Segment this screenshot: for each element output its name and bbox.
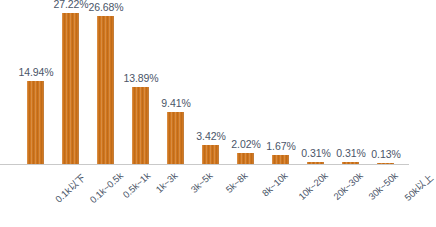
- plot-area: 14.94%27.22%26.68%13.89%9.41%3.42%2.02%1…: [18, 8, 418, 164]
- x-axis-label: 3k~5k: [188, 170, 214, 195]
- x-axis-baseline: [0, 164, 409, 165]
- x-axis-label: 30k~50k: [366, 170, 400, 202]
- bar[interactable]: [62, 13, 79, 164]
- bar[interactable]: [27, 81, 44, 164]
- x-axis-label-text: 20k~30k: [331, 170, 365, 202]
- x-axis-label: 20k~30k: [331, 170, 365, 202]
- x-axis-label-text: 30k~50k: [366, 170, 400, 202]
- x-axis-label: 50k以上: [401, 170, 436, 204]
- bar-slot: 14.94%: [18, 8, 53, 164]
- bar-slot: 0.31%: [333, 8, 368, 164]
- x-axis-label: 10k~20k: [296, 170, 330, 202]
- x-axis-label: 5k~8k: [223, 170, 249, 195]
- bar-slot: 1.67%: [263, 8, 298, 164]
- x-axis-label-text: 0.5k~1k: [120, 170, 152, 200]
- x-axis-label-text: 3k~5k: [188, 170, 214, 195]
- bar-slot: 27.22%: [53, 8, 88, 164]
- bar[interactable]: [97, 16, 114, 164]
- x-axis-label-text: 1k~3k: [153, 170, 179, 195]
- x-axis-label: 8k~10k: [260, 170, 290, 198]
- x-axis-label-text: 0.1k以下: [52, 170, 89, 205]
- bar-slot: 26.68%: [88, 8, 123, 164]
- bar[interactable]: [237, 153, 254, 164]
- x-axis-label: 0.5k~1k: [120, 170, 152, 200]
- x-axis-label: 1k~3k: [153, 170, 179, 195]
- x-axis-label-text: 8k~10k: [260, 170, 290, 198]
- bar-slot: 0.31%: [298, 8, 333, 164]
- x-axis-label: 0.1k以下: [52, 170, 89, 205]
- bar-slot: 0.13%: [368, 8, 403, 164]
- x-axis-label-text: 0.1k~0.5k: [87, 170, 125, 205]
- x-axis-label-text: 5k~8k: [223, 170, 249, 195]
- x-axis-label-text: 50k以上: [401, 170, 436, 204]
- bar-value-label: 0.13%: [355, 148, 417, 160]
- x-axis-label: 0.1k~0.5k: [87, 170, 125, 205]
- x-axis-label-text: 10k~20k: [296, 170, 330, 202]
- bar-slot: 13.89%: [123, 8, 158, 164]
